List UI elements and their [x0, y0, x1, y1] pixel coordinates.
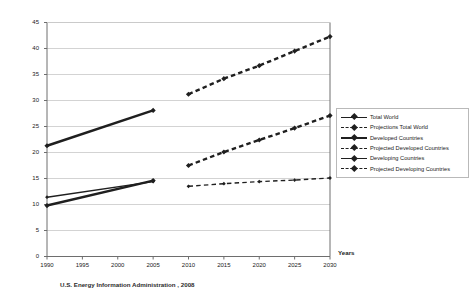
legend-key-icon — [339, 122, 369, 132]
x-tick-label: 2010 — [174, 262, 204, 268]
y-tick-label: 0 — [23, 253, 39, 259]
source-note: U.S. Energy Information Administration ,… — [60, 281, 195, 288]
y-tick-label: 25 — [23, 123, 39, 129]
legend-key-icon — [339, 153, 369, 163]
legend-item: Total World — [339, 112, 466, 122]
x-tick-label: 1990 — [32, 262, 62, 268]
x-tick-label: 2015 — [209, 262, 239, 268]
legend-diamond-icon — [351, 155, 357, 161]
series-marker — [328, 176, 332, 180]
legend-diamond-icon — [351, 113, 357, 119]
x-axis-title: Years — [338, 249, 355, 256]
series-marker — [222, 182, 226, 186]
legend-key-icon — [339, 164, 369, 174]
x-tick-label: 2030 — [315, 262, 345, 268]
series-marker — [45, 195, 49, 199]
y-tick-label: 35 — [23, 71, 39, 77]
y-tick-label: 40 — [23, 45, 39, 51]
x-tick-label: 2005 — [138, 262, 168, 268]
y-tick-label: 5 — [23, 227, 39, 233]
x-tick-label: 1995 — [67, 262, 97, 268]
legend-item-label: Developing Countries — [369, 155, 424, 161]
legend-item: Projected Developing Countries — [339, 163, 466, 173]
legend-key-icon — [339, 143, 369, 153]
legend-item-label: Developed Countries — [369, 135, 423, 141]
x-tick-label: 2020 — [244, 262, 274, 268]
legend-item: Projections Total World — [339, 122, 466, 132]
series-line — [47, 181, 153, 206]
legend-item-label: Projections Total World — [369, 124, 428, 130]
legend-diamond-icon — [351, 134, 357, 140]
x-tick-label: 2000 — [103, 262, 133, 268]
legend-item-label: Projected Developed Countries — [369, 145, 449, 151]
y-tick-label: 30 — [23, 97, 39, 103]
legend-item-label: Projected Developing Countries — [369, 166, 450, 172]
series-marker — [257, 180, 261, 184]
legend-diamond-icon — [351, 124, 357, 130]
emissions-line-chart: Billion Metric Tons CO2 Years U.S. Energ… — [0, 0, 475, 305]
series-line — [47, 110, 153, 145]
y-tick-label: 10 — [23, 201, 39, 207]
x-tick-label: 2025 — [280, 262, 310, 268]
series-marker — [187, 184, 191, 188]
legend-key-icon — [339, 112, 369, 122]
legend-item-label: Total World — [369, 114, 398, 120]
series-marker — [44, 203, 49, 208]
legend-item: Developed Countries — [339, 133, 466, 143]
y-tick-label: 45 — [23, 19, 39, 25]
y-tick-label: 15 — [23, 175, 39, 181]
y-tick-label: 20 — [23, 149, 39, 155]
legend-diamond-icon — [351, 165, 357, 171]
legend-item: Projected Developed Countries — [339, 143, 466, 153]
chart-legend: Total WorldProjections Total WorldDevelo… — [336, 108, 469, 178]
legend-item: Developing Countries — [339, 153, 466, 163]
legend-key-icon — [339, 133, 369, 143]
